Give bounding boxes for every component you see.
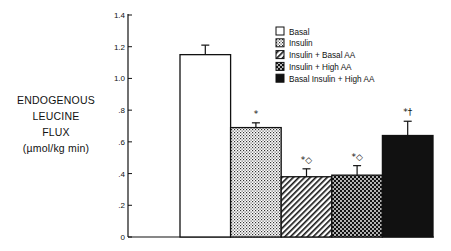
bar-5: *† [382,107,433,237]
legend-swatch [276,51,284,59]
legend-item-2: Insulin [276,39,313,49]
legend-item-4: Insulin + High AA [276,62,352,72]
y-tick-label: .6 [118,138,125,147]
y-tick-label: .8 [118,106,125,115]
y-tick-label: 1.2 [114,43,126,52]
legend-item-3: Insulin + Basal AA [276,51,356,61]
legend-swatch [276,62,284,70]
legend-label: Insulin + Basal AA [289,51,356,60]
significance-marker: *† [403,107,413,117]
legend-item-1: Basal [276,27,310,37]
y-tick-label: 0 [121,233,126,242]
y-tick-label: 1.0 [114,74,126,83]
legend-label: Basal [289,28,310,37]
legend-label: Insulin [289,39,313,48]
significance-marker: * [254,109,259,119]
legend-label: Insulin + High AA [289,63,352,72]
significance-marker: *◇ [351,152,363,162]
y-tick-label: 1.4 [114,11,126,20]
y-tick-label: .4 [118,170,125,179]
significance-marker: *◇ [301,155,313,165]
legend-item-5: Basal Insulin + High AA [276,74,375,84]
y-tick-label: .2 [118,201,125,210]
bar-3: *◇ [281,155,332,237]
bar-4: *◇ [332,152,383,237]
legend-swatch [276,27,284,35]
bar-1 [180,45,231,237]
legend-swatch [276,39,284,47]
bar-2: * [231,109,282,237]
legend-label: Basal Insulin + High AA [289,75,375,84]
legend: BasalInsulinInsulin + Basal AAInsulin + … [276,27,375,84]
bar-chart: 0.2.4.6.81.01.21.4 **◇*◇*† BasalInsulinI… [0,0,451,251]
legend-swatch [276,74,284,82]
